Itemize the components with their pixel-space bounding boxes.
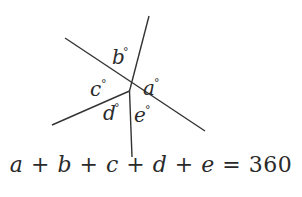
term-c: c — [106, 152, 119, 177]
plus: + — [31, 152, 50, 177]
term-b: b — [57, 152, 72, 177]
degree-icon: ° — [145, 103, 151, 116]
plus: + — [79, 152, 98, 177]
equals-sign: = — [222, 152, 241, 177]
term-e: e — [201, 152, 215, 177]
angle-label-c: c — [90, 77, 101, 101]
plus: + — [126, 152, 145, 177]
term-d: d — [153, 152, 168, 177]
angle-sum-equation: a + b + c + d + e = 360 — [0, 152, 302, 177]
total-value: 360 — [249, 152, 293, 177]
plus: + — [175, 152, 194, 177]
degree-icon: ° — [123, 45, 129, 58]
term-a: a — [10, 152, 24, 177]
degree-icon: ° — [114, 101, 120, 114]
diagram-lines — [52, 16, 205, 157]
line-bottom — [130, 91, 133, 157]
degree-icon: ° — [101, 77, 107, 90]
degree-icon: ° — [154, 76, 160, 89]
angle-labels: a°b°c°d°e° — [90, 45, 160, 127]
